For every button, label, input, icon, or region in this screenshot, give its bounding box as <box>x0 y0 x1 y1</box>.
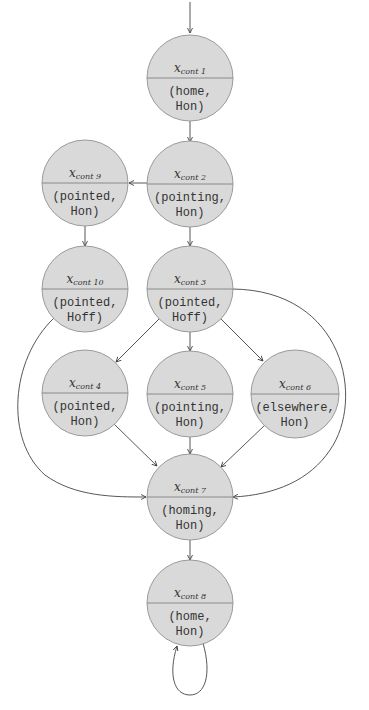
node-subscript: cont 1 <box>181 67 206 76</box>
node-n3[interactable]: xcont 3 (pointed, Hoff) <box>147 246 233 332</box>
node-n7[interactable]: xcont 7 (homing, Hon) <box>147 454 233 540</box>
node-state-line1: (pointing, <box>154 191 226 205</box>
node-state-line1: (pointed, <box>53 296 118 310</box>
node-state-line2: Hon) <box>71 205 100 219</box>
node-state-line2: Hon) <box>176 416 205 430</box>
edge-n4-n7 <box>114 424 157 466</box>
node-n8[interactable]: xcont 8 (home, Hon) <box>147 560 233 646</box>
node-subscript: cont 4 <box>76 382 101 391</box>
node-n4[interactable]: xcont 4 (pointed, Hon) <box>42 350 128 436</box>
node-subscript: cont 2 <box>181 173 206 182</box>
node-n2[interactable]: xcont 2 (pointing, Hon) <box>147 141 233 227</box>
node-state-line1: (pointed, <box>53 400 118 414</box>
node-state-line1: (elsewhere, <box>255 401 334 415</box>
node-n10[interactable]: xcont 10 (pointed, Hoff) <box>42 246 128 332</box>
node-state-line2: Hon) <box>71 415 100 429</box>
edge-n3-n4 <box>116 318 160 362</box>
node-n9[interactable]: xcont 9 (pointed, Hon) <box>42 140 128 226</box>
node-state-line1: (pointed, <box>158 296 223 310</box>
node-state-line1: (pointing, <box>154 401 226 415</box>
node-state-line1: (homing, <box>161 504 219 518</box>
edge-n6-n7 <box>221 425 265 467</box>
state-diagram: xcont 1 (home, Hon) xcont 2 (pointing, H… <box>0 0 369 710</box>
node-state-line2: Hon) <box>176 519 205 533</box>
node-subscript: cont 5 <box>181 383 206 392</box>
node-state-line1: (pointed, <box>53 190 118 204</box>
node-state-line2: Hoff) <box>67 311 103 325</box>
node-subscript: cont 10 <box>73 278 103 287</box>
node-n1[interactable]: xcont 1 (home, Hon) <box>147 35 233 121</box>
node-state-line2: Hon) <box>176 100 205 114</box>
edge-n8-self-loop <box>173 643 207 695</box>
node-n6[interactable]: xcont 6 (elsewhere, Hon) <box>251 350 339 438</box>
edge-n3-n6 <box>220 318 263 361</box>
node-state-line2: Hoff) <box>172 311 208 325</box>
node-state-line2: Hon) <box>176 206 205 220</box>
node-subscript: cont 6 <box>286 383 311 392</box>
node-subscript: cont 9 <box>76 172 101 181</box>
node-subscript: cont 8 <box>181 592 206 601</box>
node-state-line2: Hon) <box>176 625 205 639</box>
node-state-line1: (home, <box>168 85 211 99</box>
node-state-line2: Hon) <box>281 416 310 430</box>
node-n5[interactable]: xcont 5 (pointing, Hon) <box>147 351 233 437</box>
node-subscript: cont 7 <box>181 486 207 495</box>
node-subscript: cont 3 <box>181 278 206 287</box>
node-state-line1: (home, <box>168 610 211 624</box>
